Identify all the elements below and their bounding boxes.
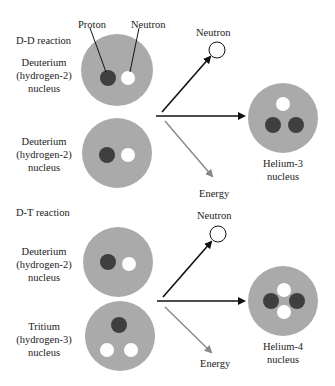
dt-energy-label: Energy [200, 357, 230, 370]
dd-reaction-title: D-D reaction [16, 34, 71, 47]
dt-reaction-title: D-T reaction [16, 206, 70, 219]
dt-neutron-particle [210, 226, 226, 242]
dd-reactant1-label: Deuterium (hydrogen-2) nucleus [14, 56, 74, 95]
dt-deuterium-nucleus [83, 227, 153, 297]
neutron-particle [121, 71, 135, 85]
dt-reactant2-label: Tritium (hydrogen-3) nucleus [14, 320, 74, 359]
dt-energy-arrow [165, 307, 211, 352]
dd-neutron-label: Neutron [196, 26, 230, 39]
dd-neutron-particle [209, 42, 225, 58]
proton-particle [100, 70, 116, 86]
dt-reactant1-label: Deuterium (hydrogen-2) nucleus [14, 245, 74, 284]
helium-3-nucleus [248, 83, 318, 153]
dt-neutron-arrow [163, 242, 211, 297]
dt-tritium-nucleus [85, 301, 155, 371]
helium-4-label: Helium-4 nucleus [258, 340, 308, 366]
helium-3-label: Helium-3 nucleus [258, 157, 308, 183]
dd-deuterium-nucleus-2 [82, 118, 152, 188]
helium-4-nucleus [248, 266, 318, 336]
dd-deuterium-nucleus-1 [81, 34, 153, 106]
dd-energy-label: Energy [199, 187, 229, 200]
dd-neutron-arrow [162, 57, 210, 112]
dd-reactant2-label: Deuterium (hydrogen-2) nucleus [14, 135, 74, 174]
neutron-callout-label: Neutron [131, 18, 165, 31]
dt-neutron-label: Neutron [197, 209, 231, 222]
proton-callout-label: Proton [78, 18, 106, 31]
dd-energy-arrow [165, 121, 212, 176]
